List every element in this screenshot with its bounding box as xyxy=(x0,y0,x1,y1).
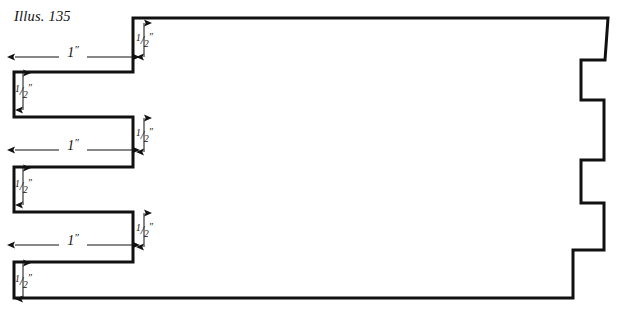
illustration-page: Illus. 135 1″1″1″1/2″1/2″1/2″1/2″1/2″1/2… xyxy=(0,0,619,314)
dimension-label-slot-height-mid-left: 1/2″ xyxy=(15,178,32,194)
workpiece-diagram xyxy=(0,0,619,314)
dimension-label-slot-width-bottom: 1″ xyxy=(59,233,87,249)
dimension-label-slot-height-top-left: 1/2″ xyxy=(15,83,32,99)
dimension-label-slot-width-top: 1″ xyxy=(59,45,87,61)
dimension-label-slot-width-middle: 1″ xyxy=(59,138,87,154)
dimension-label-tooth-gap-bot-right: 1/2″ xyxy=(136,222,153,238)
dimension-label-tooth-gap-top-right: 1/2″ xyxy=(136,32,153,48)
workpiece-outline xyxy=(14,18,608,298)
dimension-label-tooth-gap-mid-right: 1/2″ xyxy=(136,127,153,143)
vertical-dimension-group xyxy=(23,23,144,299)
outline-path xyxy=(14,18,608,298)
dimension-label-slot-height-bot-left: 1/2″ xyxy=(15,273,32,289)
figure-caption: Illus. 135 xyxy=(14,8,71,25)
